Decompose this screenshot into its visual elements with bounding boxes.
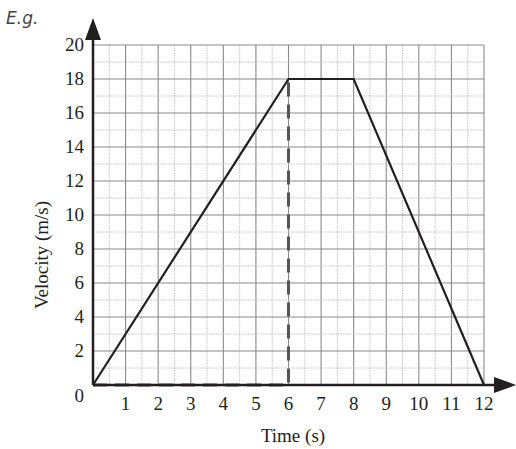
y-tick-label: 10 (65, 204, 84, 225)
y-tick-label: 20 (65, 34, 84, 55)
y-tick-label: 12 (65, 170, 84, 191)
x-axis-label: Time (s) (261, 425, 325, 447)
velocity-time-chart: 12345678910111224681012141618200 Time (s… (0, 0, 516, 449)
x-tick-label: 9 (382, 393, 392, 414)
y-tick-label: 2 (75, 340, 85, 361)
y-axis-arrow-icon (85, 18, 101, 40)
y-tick-label: 14 (65, 136, 85, 157)
x-tick-label: 3 (186, 393, 196, 414)
y-tick-label: 16 (65, 102, 84, 123)
tick-labels: 12345678910111224681012141618200 (65, 34, 494, 414)
x-tick-label: 2 (153, 393, 163, 414)
x-axis-arrow-icon (494, 377, 516, 393)
x-tick-label: 5 (251, 393, 261, 414)
x-tick-label: 1 (121, 393, 131, 414)
x-tick-label: 7 (316, 393, 326, 414)
y-tick-label: 18 (65, 68, 84, 89)
origin-label: 0 (75, 385, 85, 406)
x-tick-label: 11 (442, 393, 460, 414)
y-tick-label: 6 (75, 272, 85, 293)
x-tick-label: 4 (219, 393, 229, 414)
y-tick-label: 4 (75, 306, 85, 327)
x-tick-label: 10 (409, 393, 428, 414)
y-axis-label: Velocity (m/s) (31, 201, 53, 309)
x-tick-label: 12 (475, 393, 494, 414)
x-tick-label: 8 (349, 393, 359, 414)
x-tick-label: 6 (284, 393, 294, 414)
y-tick-label: 8 (75, 238, 85, 259)
